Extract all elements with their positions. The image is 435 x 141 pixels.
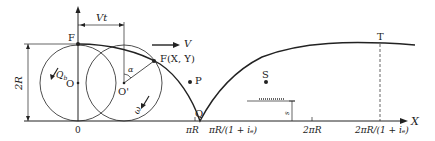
label-alpha: α xyxy=(128,65,134,74)
alpha-arc xyxy=(124,74,131,78)
vt-arrow-right-icon xyxy=(119,23,124,27)
trajectory-curve xyxy=(78,43,415,121)
velocity-arrowhead-icon xyxy=(173,42,180,48)
label-qb: Qb xyxy=(56,70,67,81)
label-f: F xyxy=(68,32,75,43)
label-t: T xyxy=(377,31,384,42)
point-f xyxy=(76,42,80,46)
center-o-point xyxy=(77,82,80,85)
point-s xyxy=(264,80,268,84)
x-axis-arrow-icon xyxy=(400,118,408,124)
label-vt: Vt xyxy=(96,12,108,23)
cycloid-diagram: X 2R O Qb O' α ω Vt V F F(X, Y) P Q S T xyxy=(0,0,435,141)
label-v: V xyxy=(184,38,193,49)
label-s-height: s xyxy=(283,111,291,115)
tick-label-pi-r: πR xyxy=(185,125,199,135)
label-s: S xyxy=(262,69,269,80)
x-axis-label: X xyxy=(410,115,420,128)
tick-label-q: πR/(1 + iₑ) xyxy=(208,125,258,135)
point-p xyxy=(188,80,192,84)
dim-arrow-up-icon xyxy=(26,44,30,49)
label-q: Q xyxy=(195,108,203,119)
2r-label: 2R xyxy=(13,76,24,91)
label-o-prime: O' xyxy=(118,86,129,97)
dim-arrow-down-icon xyxy=(26,116,30,121)
label-f-xy: F(X, Y) xyxy=(160,53,195,64)
vt-arrow-left-icon xyxy=(80,23,85,27)
y-axis-arrow-icon xyxy=(76,6,81,13)
tick-label-2pi-r: 2πR xyxy=(302,125,322,135)
omega-arrowhead-icon xyxy=(141,103,146,109)
tick-label-0: 0 xyxy=(75,125,81,135)
tick-label-t: 2πR/(1 + iₑ) xyxy=(354,125,409,135)
label-p: P xyxy=(195,75,202,86)
point-f-xy xyxy=(152,59,156,63)
